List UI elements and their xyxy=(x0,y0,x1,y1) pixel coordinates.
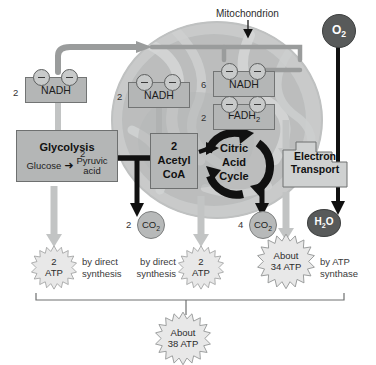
glucose-label: Glucose xyxy=(26,160,61,171)
nadh-label: NADH xyxy=(144,89,174,101)
mitochondrion-label: Mitochondrion xyxy=(216,8,279,19)
atp-yield-electron-transport: About 34 ATP xyxy=(255,233,317,291)
glycolysis-title: Glycolysis xyxy=(39,141,94,153)
oxygen-molecule: O2 xyxy=(322,14,356,48)
pyruvate-count: 2 xyxy=(80,148,85,159)
atp-cycle-method: by direct synthesis xyxy=(124,256,176,280)
atp-glycolysis-method: by direct synthesis xyxy=(82,256,122,280)
atp-etc-text: About 34 ATP xyxy=(271,251,301,273)
atp-glycolysis-text: 2 ATP xyxy=(45,257,63,279)
nadh-label: NADH xyxy=(229,78,259,90)
citric-acid-cycle-label: Citric Acid Cycle xyxy=(206,138,262,186)
acetyl-line2: CoA xyxy=(163,168,186,182)
electron-icon xyxy=(61,69,78,86)
atp-yield-citric-acid-cycle: 2 ATP xyxy=(178,245,224,291)
nadh-label: NADH xyxy=(41,84,71,96)
water-formula: H2O xyxy=(314,216,333,230)
electron-transport-box: Electron Transport xyxy=(282,136,348,188)
atp-etc-method: by ATP synthase xyxy=(320,256,358,280)
co2-left-count: 2 xyxy=(126,219,131,230)
electron-icon xyxy=(249,96,266,113)
glycolysis-nadh-count: 2 xyxy=(13,87,18,98)
electron-icon xyxy=(33,69,50,86)
atp-yield-glycolysis: 2 ATP xyxy=(31,245,77,291)
glycolysis-reaction: Glucose ➜ Pyruvic acid xyxy=(17,156,117,175)
electron-icon xyxy=(136,74,153,91)
acetyl-nadh-count: 2 xyxy=(117,91,122,102)
acetyl-coa-box: 2 Acetyl CoA xyxy=(150,133,198,189)
acetyl-nadh-group: 2 NADH xyxy=(128,82,190,108)
atp-cycle-text: 2 ATP xyxy=(192,257,210,279)
acetyl-count: 2 xyxy=(171,140,177,154)
cac-line1: Citric xyxy=(220,141,248,155)
cycle-fadh2-group: 2 FADH2 xyxy=(213,104,275,130)
cac-line2: Acid xyxy=(222,155,246,169)
atp-total-text: About 38 ATP xyxy=(168,328,198,350)
electron-icon xyxy=(221,96,238,113)
glycolysis-box: Glycolysis 2 Glucose ➜ Pyruvic acid xyxy=(16,130,118,182)
electron-icon xyxy=(221,63,238,80)
cycle-nadh-count: 6 xyxy=(201,79,206,90)
co2-formula: CO2 xyxy=(254,219,272,232)
cellular-respiration-diagram: Mitochondrion 2 NADH 2 NADH 6 NADH 2 FAD… xyxy=(0,0,376,365)
reaction-arrow-icon: ➜ xyxy=(64,159,73,172)
co2-formula: CO2 xyxy=(142,219,160,232)
electron-transport-label: Electron Transport xyxy=(282,150,348,176)
co2-molecule-glycolysis: CO2 xyxy=(137,211,165,239)
cac-line3: Cycle xyxy=(219,169,248,183)
oxygen-formula: O2 xyxy=(332,23,346,39)
electron-icon xyxy=(249,63,266,80)
atp-yield-total: About 38 ATP xyxy=(152,311,214,365)
cycle-nadh-group: 6 NADH xyxy=(213,71,275,97)
glycolysis-nadh-group: 2 NADH xyxy=(25,77,87,103)
cycle-fadh2-count: 2 xyxy=(201,112,206,123)
electron-icon xyxy=(164,74,181,91)
acetyl-line1: Acetyl xyxy=(157,154,190,168)
co2-right-count: 4 xyxy=(238,219,243,230)
